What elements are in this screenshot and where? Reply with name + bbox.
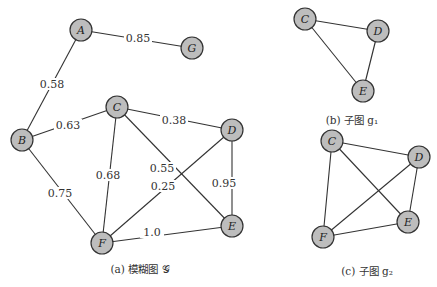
node-label-E: E (227, 220, 236, 233)
weight-F-E: 1.0 (143, 226, 161, 239)
g1-node-D: D (367, 20, 389, 42)
node-G: G (181, 37, 203, 59)
g1-edge-C-E (305, 19, 363, 91)
node-label-G: G (188, 42, 197, 55)
weight-A-G: 0.85 (126, 32, 151, 45)
weight-D-F: 0.25 (151, 180, 176, 193)
g2-node-C: C (321, 130, 343, 152)
g1-node-label-D: D (373, 25, 383, 38)
subgraph-g1: C D E (b) 子图 g₁ (294, 8, 389, 126)
node-A: A (70, 19, 92, 41)
edge-F-E (102, 226, 232, 243)
node-label-A: A (76, 24, 85, 37)
main-graph-edges (22, 30, 232, 243)
caption-subgraph-g2: (c) 子图 g₂ (341, 265, 393, 277)
g1-node-label-E: E (358, 85, 367, 98)
node-label-D: D (227, 124, 237, 137)
node-C: C (106, 96, 128, 118)
g1-node-C: C (294, 8, 316, 30)
subgraph-g2: C D E F (c) 子图 g₂ (312, 130, 430, 277)
node-F: F (91, 232, 113, 254)
caption-subgraph-g1: (b) 子图 g₁ (326, 114, 379, 126)
weight-C-D: 0.38 (162, 114, 187, 127)
node-E: E (221, 215, 243, 237)
g1-node-E: E (352, 80, 374, 102)
node-label-C: C (113, 101, 122, 114)
fuzzy-graph-figure: 0.85 0.58 0.63 0.38 0.75 0.68 0.55 0.25 … (0, 0, 437, 287)
g2-node-label-D: D (414, 151, 424, 164)
main-graph-weights: 0.85 0.58 0.63 0.38 0.75 0.68 0.55 0.25 … (38, 32, 238, 239)
weight-B-F: 0.75 (48, 187, 73, 200)
node-D: D (221, 119, 243, 141)
weight-C-E: 0.55 (150, 162, 175, 175)
g2-node-label-F: F (318, 231, 327, 244)
g2-node-E: E (397, 211, 419, 233)
node-label-B: B (17, 134, 26, 147)
g2-node-D: D (408, 146, 430, 168)
weight-D-E: 0.95 (212, 177, 237, 190)
g2-node-label-C: C (328, 135, 337, 148)
weight-A-B: 0.58 (40, 78, 65, 91)
g2-node-label-E: E (403, 216, 412, 229)
caption-main-graph: (a) 模糊图 𝒢 (110, 263, 169, 275)
weight-C-F: 0.68 (96, 169, 121, 182)
node-B: B (11, 129, 33, 151)
g2-node-F: F (312, 226, 334, 248)
g2-edge-F-E (323, 222, 408, 237)
node-label-F: F (97, 237, 106, 250)
g2-edge-C-F (323, 141, 332, 237)
weight-B-C: 0.63 (56, 119, 81, 132)
g1-node-label-C: C (301, 13, 310, 26)
